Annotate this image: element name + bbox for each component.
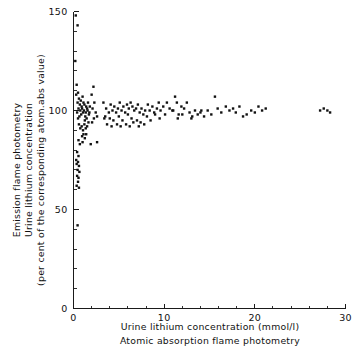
data-point — [105, 107, 107, 109]
data-point — [78, 165, 80, 167]
data-point — [117, 107, 119, 109]
data-point — [151, 105, 153, 107]
data-point — [206, 109, 208, 111]
data-point — [132, 121, 134, 123]
data-point — [127, 113, 129, 115]
data-point — [75, 185, 77, 187]
data-point — [238, 105, 240, 107]
data-point — [109, 103, 111, 105]
y-axis-title-line2: Urine lithium concentration — [23, 103, 34, 237]
data-point — [90, 93, 92, 95]
data-point — [199, 111, 201, 113]
data-point — [78, 187, 80, 189]
data-point — [147, 103, 149, 105]
data-point — [129, 101, 131, 103]
y-axis-title-line3: (per cent of the corresponding atom.abs … — [35, 54, 46, 286]
data-point — [111, 109, 113, 111]
data-point — [149, 119, 151, 121]
data-point — [115, 111, 117, 113]
data-point — [166, 101, 168, 103]
data-point — [112, 119, 114, 121]
data-point — [177, 117, 179, 119]
data-point — [143, 123, 145, 125]
data-point — [102, 101, 104, 103]
data-point — [186, 101, 188, 103]
data-point — [95, 111, 97, 113]
data-point — [77, 139, 79, 141]
data-point — [129, 125, 131, 127]
y-tick-label: 0 — [61, 303, 67, 314]
data-point — [85, 117, 87, 119]
data-points-group — [74, 14, 331, 226]
data-point — [75, 84, 77, 86]
data-point — [174, 95, 176, 97]
data-point — [91, 107, 93, 109]
x-tick-label: 0 — [70, 312, 76, 323]
data-point — [76, 224, 78, 226]
data-point — [216, 107, 218, 109]
data-point — [137, 103, 139, 105]
data-point — [77, 181, 79, 183]
data-point — [235, 111, 237, 113]
data-point — [225, 105, 227, 107]
data-point — [194, 109, 196, 111]
data-point — [122, 105, 124, 107]
data-point — [154, 113, 156, 115]
data-point — [126, 103, 128, 105]
data-point — [329, 111, 331, 113]
data-point — [158, 101, 160, 103]
y-axis-title-line1: Emission flame photometry — [11, 103, 22, 238]
data-point — [220, 111, 222, 113]
data-point — [228, 109, 230, 111]
scatter-chart-figure: 0102030 050100150 Urine lithium concentr… — [0, 0, 364, 353]
data-point — [121, 119, 123, 121]
data-point — [110, 125, 112, 127]
data-point — [245, 113, 247, 115]
data-point — [79, 143, 81, 145]
data-point — [81, 95, 83, 97]
data-point — [76, 151, 78, 153]
data-point — [146, 115, 148, 117]
data-point — [180, 105, 182, 107]
data-point — [188, 111, 190, 113]
axis-lines — [74, 12, 346, 309]
data-point — [131, 105, 133, 107]
data-point — [78, 171, 80, 173]
data-point — [118, 115, 120, 117]
data-point — [162, 105, 164, 107]
data-point — [183, 107, 185, 109]
data-point — [78, 123, 80, 125]
data-point — [139, 121, 141, 123]
data-point — [257, 105, 259, 107]
data-point — [135, 107, 137, 109]
data-point — [77, 91, 79, 93]
data-point — [164, 113, 166, 115]
data-point — [93, 117, 95, 119]
data-point — [85, 133, 87, 135]
data-point — [75, 163, 77, 165]
data-point — [232, 107, 234, 109]
data-point — [90, 143, 92, 145]
data-point — [106, 123, 108, 125]
data-point — [75, 14, 77, 16]
data-point — [210, 113, 212, 115]
data-point — [120, 109, 122, 111]
x-tick-label: 30 — [339, 312, 352, 323]
x-axis-title-line1: Urine lithium concentration (mmol/l) — [121, 321, 300, 332]
data-point — [138, 111, 140, 113]
data-point — [74, 60, 76, 62]
data-point — [119, 101, 121, 103]
y-tick-label: 100 — [48, 105, 67, 116]
data-point — [125, 123, 127, 125]
data-point — [77, 117, 79, 119]
data-point — [87, 101, 89, 103]
data-point — [250, 109, 252, 111]
data-point — [130, 117, 132, 119]
data-point — [92, 86, 94, 88]
scatter-plot-svg: 0102030 050100150 Urine lithium concentr… — [0, 0, 364, 353]
data-point — [140, 107, 142, 109]
y-tick-label: 50 — [55, 204, 68, 215]
data-point — [82, 129, 84, 131]
data-point — [96, 141, 98, 143]
data-point — [148, 109, 150, 111]
